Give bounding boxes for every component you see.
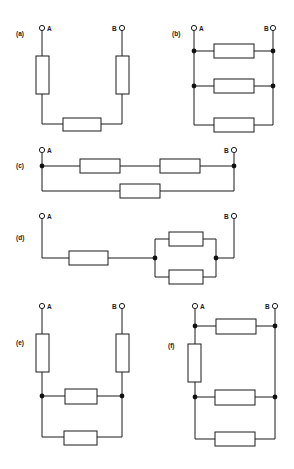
circuit-label-f: (f) [168,342,175,350]
resistor [116,334,129,372]
resistor [214,79,254,93]
resistor [215,390,255,405]
terminal-a [192,303,197,308]
terminal-b-label: B [224,147,229,154]
terminal-b [119,25,124,30]
junction-node [153,256,158,261]
terminal-b-label: B [112,303,117,310]
terminal-b [231,147,236,152]
junction-node [40,164,45,169]
resistor [169,270,203,284]
resistor [160,159,200,173]
resistor [36,56,49,94]
terminal-b-label: B [112,25,117,32]
junction-node [271,49,276,54]
terminal-b [231,213,236,218]
resistor [69,251,108,265]
terminal-a [39,25,44,30]
circuit-label-c: (c) [16,162,24,170]
junction-node [232,164,237,169]
circuit-d: (d) A B [16,213,237,284]
circuit-b: (b) A B [172,25,276,132]
resistor [65,389,97,404]
resistor [214,118,254,132]
resistor [216,319,256,334]
resistor [169,232,203,246]
circuit-a: (a) A B [16,25,129,131]
circuit-label-e: (e) [16,339,24,347]
junction-node [273,395,278,400]
junction-node [193,395,198,400]
junction-node [120,394,125,399]
junction-node [271,84,276,89]
circuit-e: (e) A B [16,303,129,445]
terminal-a-label: A [47,25,52,32]
junction-node [192,49,197,54]
junction-node [193,324,198,329]
terminal-b-label: B [224,213,229,220]
terminal-b [270,25,275,30]
resistor [116,56,129,94]
terminal-b-label: B [265,303,270,310]
terminal-b [272,303,277,308]
terminal-a-label: A [47,147,52,154]
resistor [215,432,255,446]
terminal-a-label: A [199,25,204,32]
terminal-a [39,303,44,308]
circuit-c: (c) A B [16,147,237,198]
junction-node [192,84,197,89]
circuit-f: (f) A B [168,303,278,446]
junction-node [273,324,278,329]
resistor [80,159,120,173]
resistor [120,184,160,198]
circuit-label-b: (b) [172,30,180,38]
junction-node [40,394,45,399]
terminal-b [119,303,124,308]
resistor [64,431,97,445]
junction-node [214,256,219,261]
terminal-a-label: A [47,213,52,220]
terminal-a [191,25,196,30]
resistor [63,118,101,131]
terminal-b-label: B [264,25,269,32]
circuit-diagram: (a) A B (b) A B (c) A [0,0,294,469]
terminal-a [39,147,44,152]
circuit-label-a: (a) [16,30,24,38]
terminal-a [39,213,44,218]
terminal-a-label: A [47,303,52,310]
terminal-a-label: A [200,303,205,310]
resistor [36,334,49,372]
circuit-label-d: (d) [16,234,24,242]
resistor [188,344,201,382]
resistor [214,44,254,58]
